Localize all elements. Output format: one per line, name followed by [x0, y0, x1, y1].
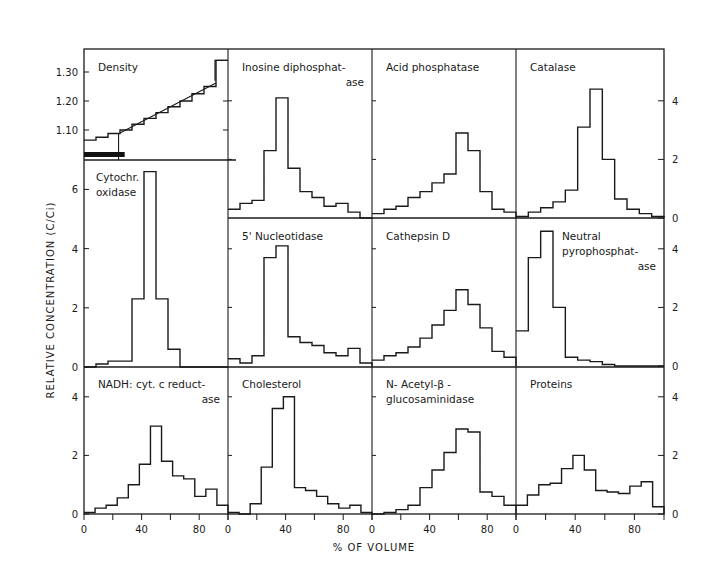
svg-text:Acid phosphatase: Acid phosphatase	[386, 61, 479, 73]
y-tick-label: 2	[672, 302, 678, 313]
y-tick-label: 4	[672, 96, 678, 107]
svg-text:Cytochr.: Cytochr.	[96, 171, 139, 183]
series-acid-phosphatase	[372, 133, 516, 218]
x-axis-label: % OF VOLUME	[333, 542, 415, 553]
panel-title-acid-phosphatase: Acid phosphatase	[386, 61, 479, 73]
series-density	[84, 60, 228, 160]
svg-text:Cholesterol: Cholesterol	[242, 378, 301, 390]
y-tick-label: 2	[672, 154, 678, 165]
series-5-nucleotidase	[228, 246, 372, 366]
panel-title-proteins: Proteins	[530, 378, 572, 390]
panel-title-nadh-cyt-c-reductase: NADH: cyt. c reduct-ase	[98, 378, 220, 405]
y-tick-label: 0	[72, 509, 78, 520]
y-tick-label: 4	[72, 244, 78, 255]
y-tick-label: 4	[72, 392, 78, 403]
x-tick-label: 80	[337, 524, 350, 535]
svg-text:Inosine diphosphat-: Inosine diphosphat-	[242, 61, 346, 73]
svg-text:NADH: cyt. c reduct-: NADH: cyt. c reduct-	[98, 378, 206, 390]
svg-text:pyrophosphat-: pyrophosphat-	[562, 245, 638, 257]
panel-frames	[84, 49, 664, 514]
svg-text:N- Acetyl-β -: N- Acetyl-β -	[386, 378, 451, 390]
series-catalase	[516, 89, 664, 218]
panel-title-5-nucleotidase: 5' Nucleotidase	[242, 230, 323, 242]
svg-text:ase: ase	[638, 260, 656, 272]
y-tick-label: 0	[72, 362, 78, 373]
x-tick-label: 0	[81, 524, 87, 535]
y-tick-label: 2	[72, 450, 78, 461]
svg-text:oxidase: oxidase	[96, 186, 136, 198]
panel-title-neutral-pyrophosphatase: Neutralpyrophosphat-ase	[562, 230, 656, 272]
y-tick-label: 2	[72, 303, 78, 314]
x-tick-label: 0	[513, 524, 519, 535]
svg-text:Cathepsin D: Cathepsin D	[386, 230, 450, 242]
y-tick-label: 4	[672, 392, 678, 403]
panel-title-cathepsin-d: Cathepsin D	[386, 230, 450, 242]
svg-text:Proteins: Proteins	[530, 378, 572, 390]
y-tick-label: 0	[672, 361, 678, 372]
x-tick-label: 80	[481, 524, 494, 535]
y-tick-label: 1.10	[56, 125, 78, 136]
x-tick-label: 80	[193, 524, 206, 535]
y-tick-label: 0	[672, 213, 678, 224]
series-inosine-diphosphatase	[228, 98, 372, 218]
y-tick-label: 6	[72, 184, 78, 195]
series-cathepsin-d	[372, 290, 516, 366]
series-cholesterol	[228, 397, 372, 514]
x-tick-label: 0	[369, 524, 375, 535]
y-tick-label: 4	[672, 244, 678, 255]
series-nadh-cyt-c-reductase	[84, 426, 228, 514]
svg-text:ase: ase	[346, 76, 364, 88]
series-n-acetyl-beta-glucosaminidase	[372, 429, 516, 514]
histogram-grid-figure: DensityCytochr.oxidaseInosine diphosphat…	[0, 0, 719, 579]
panel-title-catalase: Catalase	[530, 61, 576, 73]
y-axis-label: RELATIVE CONCENTRATION (C/Ci)	[45, 202, 56, 399]
svg-text:glucosaminidase: glucosaminidase	[386, 393, 474, 405]
svg-text:Neutral: Neutral	[562, 230, 601, 242]
svg-text:Catalase: Catalase	[530, 61, 576, 73]
series-proteins	[516, 455, 664, 514]
x-tick-label: 0	[225, 524, 231, 535]
svg-text:5' Nucleotidase: 5' Nucleotidase	[242, 230, 323, 242]
panel-title-density: Density	[98, 61, 138, 73]
y-tick-label: 0	[672, 509, 678, 520]
x-tick-label: 40	[569, 524, 582, 535]
x-tick-label: 80	[628, 524, 641, 535]
y-tick-label: 2	[672, 450, 678, 461]
histogram-series	[84, 60, 664, 514]
svg-text:ase: ase	[202, 393, 220, 405]
x-tick-label: 40	[279, 524, 292, 535]
panel-title-cytochrome-oxidase: Cytochr.oxidase	[96, 171, 139, 198]
series-cytochrome-oxidase	[84, 172, 228, 367]
y-tick-label: 1.20	[56, 96, 78, 107]
x-tick-label: 40	[135, 524, 148, 535]
x-tick-label: 40	[423, 524, 436, 535]
panel-title-inosine-diphosphatase: Inosine diphosphat-ase	[242, 61, 364, 88]
panel-title-n-acetyl-beta-glucosaminidase: N- Acetyl-β -glucosaminidase	[386, 378, 474, 405]
sample-load-bar	[84, 152, 125, 157]
svg-text:Density: Density	[98, 61, 138, 73]
panel-title-cholesterol: Cholesterol	[242, 378, 301, 390]
y-tick-label: 1.30	[56, 67, 78, 78]
